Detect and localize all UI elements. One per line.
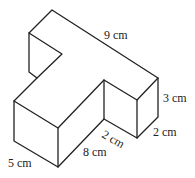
label-top-length: 9 cm: [104, 29, 128, 41]
notch-edge: [29, 33, 62, 78]
t-prism-diagram: 9 cm 3 cm 2 cm 2 cm 8 cm 5 cm: [0, 0, 195, 178]
label-right-depth: 2 cm: [153, 126, 177, 138]
label-front-length: 8 cm: [83, 146, 107, 158]
label-left-depth: 5 cm: [8, 157, 32, 169]
label-right-height: 3 cm: [163, 92, 187, 104]
